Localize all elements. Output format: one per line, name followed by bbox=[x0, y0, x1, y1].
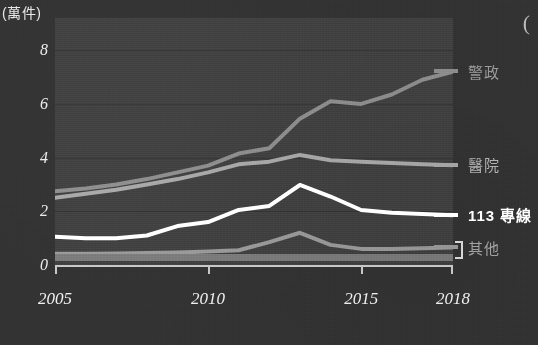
y-axis-tick-labels: 02468 bbox=[0, 18, 48, 265]
x-axis-tickmark bbox=[451, 265, 453, 274]
y-axis-tick-6: 6 bbox=[2, 95, 48, 113]
x-axis-tickmark bbox=[361, 265, 363, 274]
y-axis-tick-0: 0 bbox=[2, 256, 48, 274]
chart-figure: (萬件) 02468 2005201020152018 警政醫院113 專線其他… bbox=[0, 0, 538, 345]
x-axis-tick-2010: 2010 bbox=[191, 289, 225, 309]
corner-paren-mark: ( bbox=[523, 10, 530, 36]
x-axis-tick-2005: 2005 bbox=[38, 289, 72, 309]
x-axis-tickmark bbox=[208, 265, 210, 274]
legend-item-police[interactable]: 警政 bbox=[468, 61, 500, 82]
series-line-醫院 bbox=[55, 155, 453, 198]
y-axis-tick-8: 8 bbox=[2, 41, 48, 59]
x-axis-line bbox=[55, 265, 453, 267]
data-series-lines bbox=[55, 18, 453, 265]
legend-label-hospital: 醫院 bbox=[468, 157, 500, 174]
series-line-警政 bbox=[55, 72, 453, 191]
x-axis-tickmark bbox=[55, 265, 57, 274]
x-axis-tick-2015: 2015 bbox=[344, 289, 378, 309]
y-axis-tick-4: 4 bbox=[2, 149, 48, 167]
series-line-其他 bbox=[55, 233, 453, 254]
legend-item-hospital[interactable]: 醫院 bbox=[468, 154, 500, 175]
y-axis-tick-2: 2 bbox=[2, 202, 48, 220]
legend-item-other[interactable]: 其他 bbox=[468, 237, 500, 258]
series-line-113 專線 bbox=[55, 185, 453, 238]
legend-swatch-police bbox=[434, 69, 458, 73]
legend-label-other: 其他 bbox=[468, 240, 500, 257]
legend-item-hotline-113[interactable]: 113 專線 bbox=[468, 204, 532, 225]
legend-label-police: 警政 bbox=[468, 64, 500, 81]
legend-swatch-hospital bbox=[434, 163, 458, 167]
legend-swatch-hotline-113 bbox=[434, 213, 458, 217]
legend-swatch-other bbox=[434, 245, 458, 249]
x-axis-tick-2018: 2018 bbox=[436, 289, 470, 309]
legend-label-hotline-113: 113 專線 bbox=[468, 207, 532, 224]
other-bracket-marker bbox=[455, 241, 463, 259]
